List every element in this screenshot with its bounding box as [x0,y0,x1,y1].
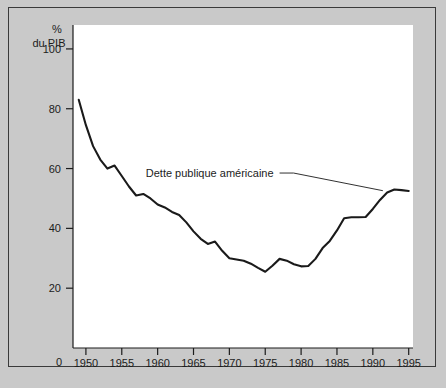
x-tick-label: 1975 [253,357,277,369]
x-tick-label: 1985 [325,357,349,369]
y-axis-title-line-2: du PIB [32,37,65,49]
x-tick-group: 1950195519601965197019751980198519901995 [74,348,421,369]
y-axis-title-line-1: % [52,23,62,35]
x-tick-label: 1990 [361,357,385,369]
x-tick-label: 1960 [145,357,169,369]
x-tick-label: 1950 [74,357,98,369]
y-tick-label: 20 [49,282,61,294]
y-tick-label: 40 [49,222,61,234]
y-tick-label: 80 [49,103,61,115]
chart-plot-wrapper: 20406080100 1950195519601965197019751980… [0,0,446,388]
y-tick-label: 60 [49,163,61,175]
y-tick-group: 20406080100 [43,43,73,294]
figure-container: 20406080100 1950195519601965197019751980… [0,0,446,388]
x-tick-label: 1965 [181,357,205,369]
x-tick-label: 1995 [396,357,420,369]
x-tick-label: 1970 [217,357,241,369]
debt-line-chart: 20406080100 1950195519601965197019751980… [0,0,446,388]
x-tick-label: 1955 [110,357,134,369]
x-axis-origin-label: 0 [56,356,62,368]
annotation-label: Dette publique américaine [146,167,274,179]
x-tick-label: 1980 [289,357,313,369]
